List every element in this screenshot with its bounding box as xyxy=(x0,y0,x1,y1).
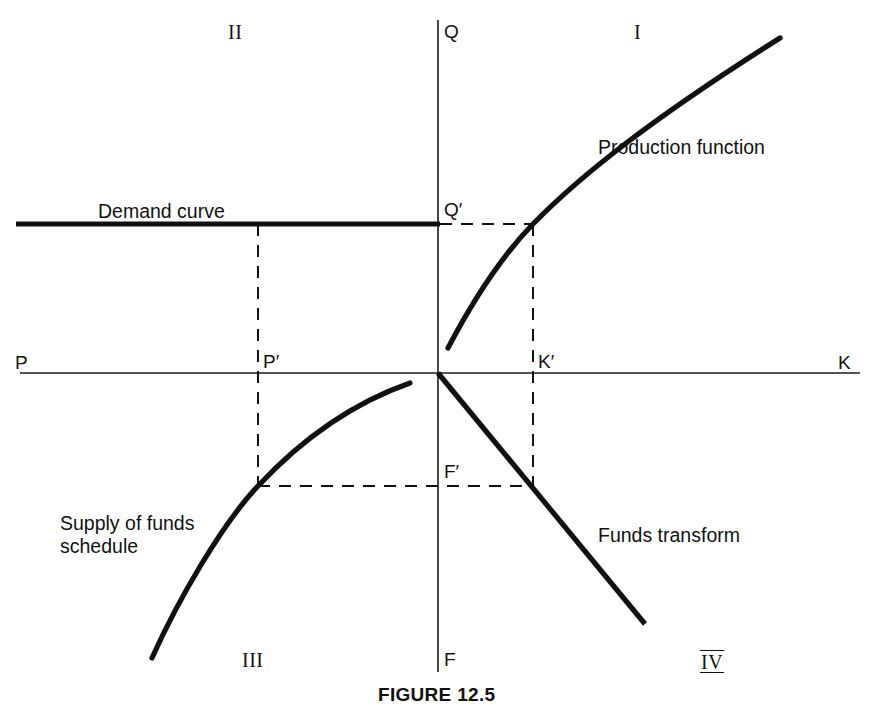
four-quadrant-diagram xyxy=(0,0,869,717)
quadrant-label-iv: IV xyxy=(700,650,724,673)
axis-label-q: Q xyxy=(444,20,459,43)
demand-curve-label: Demand curve xyxy=(98,200,225,224)
figure-caption: FIGURE 12.5 xyxy=(378,684,495,706)
production-function-curve xyxy=(448,38,780,348)
quadrant-label-ii: II xyxy=(228,20,242,44)
figure-container: Q F P K Q′ P′ K′ F′ Demand curve Product… xyxy=(0,0,869,717)
production-function-label: Production function xyxy=(598,136,765,160)
supply-of-funds-label-line1: Supply of funds xyxy=(60,512,194,536)
quadrant-label-i: I xyxy=(634,20,641,44)
point-label-p-prime: P′ xyxy=(263,350,279,373)
point-label-q-prime: Q′ xyxy=(444,198,462,221)
quadrant-label-iii: III xyxy=(242,648,263,672)
axis-label-p: P xyxy=(15,351,28,374)
point-label-f-prime: F′ xyxy=(444,460,459,483)
axis-label-f: F xyxy=(444,648,456,671)
funds-transform-label: Funds transform xyxy=(598,524,740,548)
funds-transform-line xyxy=(438,373,645,624)
supply-of-funds-label-line2: schedule xyxy=(60,535,138,559)
point-label-k-prime: K′ xyxy=(538,350,554,373)
axis-label-k: K xyxy=(838,351,851,374)
